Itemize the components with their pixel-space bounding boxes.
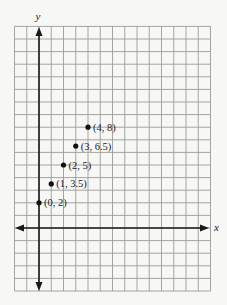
data-point-label: (0, 2) (44, 197, 67, 209)
coordinate-plane: x y (0, 2)(1, 3.5)(2, 5)(3, 6.5)(4, 8) (0, 0, 227, 305)
y-axis-label: y (35, 10, 41, 22)
data-point-label: (3, 6.5) (81, 141, 112, 153)
data-point (85, 125, 90, 130)
data-point (36, 200, 41, 205)
y-axis-down-arrow-icon (36, 282, 43, 291)
x-axis-left-arrow-icon (15, 225, 24, 232)
data-point-label: (2, 5) (69, 160, 92, 172)
axes: x y (15, 10, 219, 291)
grid (15, 26, 211, 291)
data-point-label: (1, 3.5) (56, 178, 87, 190)
x-axis-label: x (213, 221, 219, 233)
x-axis-right-arrow-icon (200, 225, 209, 232)
data-point (61, 162, 66, 167)
y-axis-up-arrow-icon (36, 27, 43, 36)
data-point (49, 181, 54, 186)
data-point (73, 144, 78, 149)
data-points: (0, 2)(1, 3.5)(2, 5)(3, 6.5)(4, 8) (36, 122, 116, 210)
data-point-label: (4, 8) (93, 122, 116, 134)
